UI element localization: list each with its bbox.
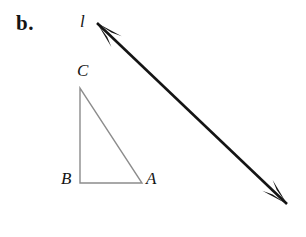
line-label-l: l: [80, 13, 85, 30]
vertex-label-a: A: [146, 170, 156, 187]
line-l: [97, 23, 287, 204]
triangle-abc: [80, 88, 142, 183]
part-label: b.: [16, 13, 34, 34]
line-l-shaft: [97, 23, 287, 204]
geometry-figure: b. l C B A: [0, 0, 306, 237]
vertex-label-b: B: [61, 170, 71, 187]
vertex-label-c: C: [77, 62, 88, 79]
figure-canvas: [0, 0, 306, 237]
